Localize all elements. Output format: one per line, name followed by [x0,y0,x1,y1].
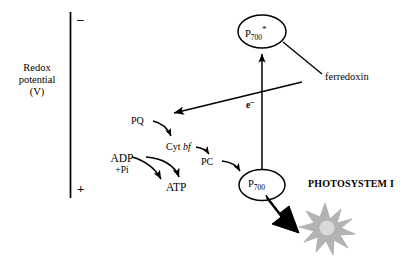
p700-excited-asterisk: * [262,24,267,34]
axis-label-line-1: Redox [4,62,70,74]
cytochrome-bf-label: Cyt bf [166,141,191,152]
photosystem-diagram: Redox potential (V) – + P700* P700 PQ Cy… [0,0,411,264]
arrow-pq-to-cytbf [153,121,171,136]
axis-positive-sign: + [77,182,84,197]
axis-label-line-2: potential [4,74,70,86]
atp-label: ATP [166,181,186,194]
axis-label-line-3: (V) [4,86,70,98]
pq-label: PQ [131,115,144,126]
p700-excited-label: P700* [245,24,267,42]
light-starburst-icon [299,203,355,255]
cytbf-prefix: Cyt [166,141,183,152]
p700-excited-subscript: 700 [251,33,262,42]
ferredoxin-leader-line [283,42,322,74]
p700-subscript: 700 [254,183,265,192]
diagram-canvas [0,0,411,264]
axis-negative-sign: – [77,12,84,27]
photosystem-i-label: PHOTOSYSTEM I [308,178,394,189]
redox-potential-axis-label: Redox potential (V) [4,62,70,97]
ferredoxin-label: ferredoxin [325,71,369,83]
light-absorption-arrow [266,195,299,233]
phosphate-label: +Pi [100,165,144,176]
electron-charge: – [250,97,254,106]
adp-label: ADP [100,152,144,165]
arrow-cytbf-to-pc [196,147,209,154]
p700-label: P700 [248,178,265,192]
cytbf-italic: bf [183,141,191,152]
plastocyanin-label: PC [201,156,213,167]
electron-transfer-line [174,82,302,113]
arrow-pc-to-p700 [222,161,240,171]
electron-label: e– [246,98,254,111]
